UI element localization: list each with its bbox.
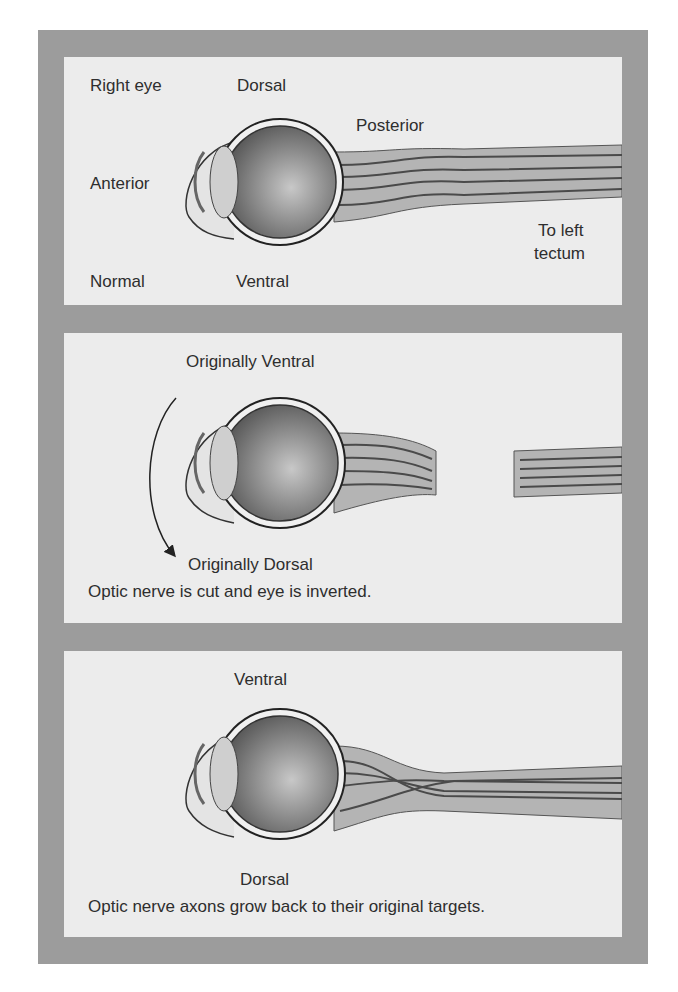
label-tectum: tectum (534, 245, 585, 262)
label-to-left: To left (538, 222, 583, 239)
panel-normal: Right eye Dorsal Posterior Anterior To l… (64, 57, 622, 305)
label-ventral-top: Ventral (234, 671, 287, 688)
label-dorsal: Dorsal (237, 77, 286, 94)
panel-cut-inverted: Originally Ventral Originally Dorsal Opt… (64, 333, 622, 623)
label-right-eye: Right eye (90, 77, 162, 94)
optic-nerve-distal (514, 447, 622, 497)
label-posterior: Posterior (356, 117, 424, 134)
panel-regrowth: Ventral Dorsal Optic nerve axons grow ba… (64, 651, 622, 937)
label-anterior: Anterior (90, 175, 150, 192)
caption-cut-inverted: Optic nerve is cut and eye is inverted. (88, 583, 371, 600)
label-normal: Normal (90, 273, 145, 290)
rotation-arrow (150, 398, 176, 555)
caption-regrowth: Optic nerve axons grow back to their ori… (88, 898, 485, 915)
eye-inverted-illustration (64, 333, 622, 623)
eye-regrowth-illustration (64, 651, 622, 937)
optic-nerve-regrown (334, 746, 622, 831)
label-ventral: Ventral (236, 273, 289, 290)
label-originally-ventral: Originally Ventral (186, 353, 315, 370)
label-dorsal-bottom: Dorsal (240, 871, 289, 888)
label-originally-dorsal: Originally Dorsal (188, 556, 313, 573)
